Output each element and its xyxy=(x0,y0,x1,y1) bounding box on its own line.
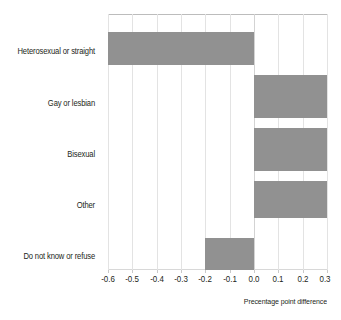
plot-area xyxy=(108,14,327,270)
bar-do-not-know-or-refuse xyxy=(205,238,254,270)
y-axis-label-other: Other xyxy=(7,201,95,210)
x-tick-label--0.6: -0.6 xyxy=(101,274,115,284)
bar-bisexual xyxy=(254,128,327,171)
plot-top-border xyxy=(108,14,327,15)
bar-gay-or-lesbian xyxy=(254,75,327,118)
y-axis-label-gay-or-lesbian: Gay or lesbian xyxy=(7,99,95,108)
x-tick-label-0.0: 0.0 xyxy=(248,274,259,284)
x-tick-label--0.5: -0.5 xyxy=(125,274,139,284)
bar-chart: Heterosexual or straight Gay or lesbian … xyxy=(0,0,341,320)
x-tick-label--0.3: -0.3 xyxy=(174,274,188,284)
tick-mark--0.1 xyxy=(230,270,231,273)
x-tick-label-0.2: 0.2 xyxy=(297,274,308,284)
x-axis-title: Precentage point difference xyxy=(119,297,327,306)
tick-mark--0.5 xyxy=(132,270,133,273)
x-tick-label--0.2: -0.2 xyxy=(198,274,212,284)
y-axis-category-labels: Heterosexual or straight Gay or lesbian … xyxy=(0,14,99,270)
tick-mark--0.4 xyxy=(157,270,158,273)
x-tick-label--0.4: -0.4 xyxy=(150,274,164,284)
bar-other xyxy=(254,181,327,218)
x-tick-label--0.1: -0.1 xyxy=(223,274,237,284)
tick-mark--0.2 xyxy=(205,270,206,273)
y-axis-label-bisexual: Bisexual xyxy=(7,150,95,159)
y-axis-label-heterosexual-or-straight: Heterosexual or straight xyxy=(7,47,95,56)
tick-mark-0.3 xyxy=(327,270,328,273)
x-tick-label-0.3: 0.3 xyxy=(319,274,330,284)
x-tick-label-0.1: 0.1 xyxy=(272,274,283,284)
tick-mark--0.3 xyxy=(181,270,182,273)
tick-mark-0.1 xyxy=(278,270,279,273)
y-axis-label-do-not-know-or-refuse: Do not know or refuse xyxy=(7,252,95,261)
gridline-0.3 xyxy=(327,14,328,270)
tick-mark-0.0 xyxy=(254,270,255,273)
x-axis: -0.6 -0.5 -0.4 -0.3 -0.2 -0.1 0.0 0.1 0.… xyxy=(108,270,327,288)
tick-mark--0.6 xyxy=(108,270,109,273)
bar-heterosexual-or-straight xyxy=(108,32,254,65)
tick-mark-0.2 xyxy=(303,270,304,273)
